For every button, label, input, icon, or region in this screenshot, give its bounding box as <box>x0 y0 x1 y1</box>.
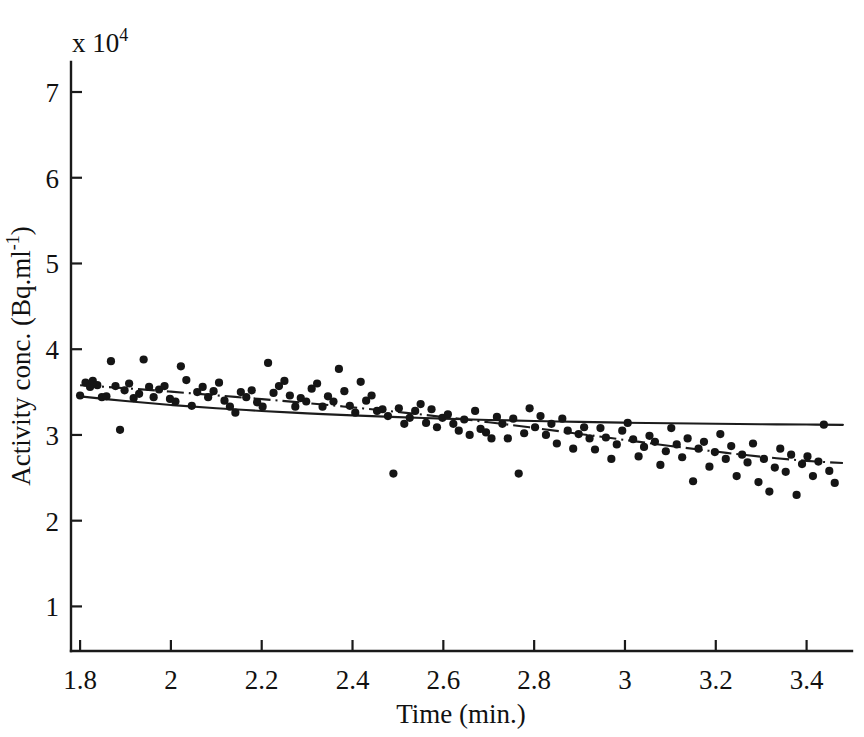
data-point <box>602 433 610 441</box>
x-tick-label: 2 <box>164 665 178 695</box>
data-point <box>776 445 784 453</box>
data-point <box>591 445 599 453</box>
data-point <box>188 402 196 410</box>
data-point <box>743 458 751 466</box>
data-point <box>765 487 773 495</box>
data-point <box>820 421 828 429</box>
data-point <box>269 389 277 397</box>
data-point <box>199 383 207 391</box>
data-point <box>803 452 811 460</box>
y-tick-label: 4 <box>46 335 60 365</box>
data-point <box>215 379 223 387</box>
data-point <box>814 457 822 465</box>
data-point <box>93 381 101 389</box>
data-point <box>120 386 128 394</box>
data-point <box>427 405 435 413</box>
data-point <box>656 461 664 469</box>
data-point <box>395 404 403 412</box>
data-point <box>782 468 790 476</box>
data-point <box>733 472 741 480</box>
data-point <box>378 405 386 413</box>
data-point <box>329 397 337 405</box>
data-point <box>520 429 528 437</box>
data-point <box>738 451 746 459</box>
data-point <box>558 415 566 423</box>
y-axis-multiplier-label: x 104 <box>72 25 128 58</box>
data-point <box>651 438 659 446</box>
data-point <box>705 463 713 471</box>
data-point <box>346 402 354 410</box>
scatter-points-group <box>76 355 839 499</box>
x-tick-label: 2.8 <box>517 665 551 695</box>
data-point <box>302 397 310 405</box>
data-point <box>607 455 615 463</box>
data-point <box>449 420 457 428</box>
data-point <box>140 355 148 363</box>
x-tick-label: 2.6 <box>426 665 460 695</box>
data-point <box>286 391 294 399</box>
data-point <box>335 365 343 373</box>
data-point <box>825 467 833 475</box>
data-point <box>406 414 414 422</box>
data-point <box>493 413 501 421</box>
data-point <box>135 390 143 398</box>
data-point <box>771 463 779 471</box>
data-point <box>177 362 185 370</box>
data-point <box>116 426 124 434</box>
data-point <box>526 404 534 412</box>
data-point <box>466 431 474 439</box>
data-point <box>76 391 84 399</box>
data-point <box>536 412 544 420</box>
x-tick-label: 2.4 <box>336 665 370 695</box>
data-point <box>160 382 168 390</box>
data-point <box>231 409 239 417</box>
data-point <box>264 359 272 367</box>
x-tick-label: 1.8 <box>63 665 97 695</box>
data-point <box>248 386 256 394</box>
data-point <box>531 423 539 431</box>
x-axis-ticks: 1.822.22.42.62.833.23.4 <box>63 640 824 695</box>
data-point <box>111 382 119 390</box>
data-point <box>444 410 452 418</box>
data-point <box>351 409 359 417</box>
data-point <box>634 452 642 460</box>
data-point <box>727 442 735 450</box>
axes-group <box>71 62 852 651</box>
x-tick-label: 3.2 <box>699 665 733 695</box>
data-point <box>125 379 133 387</box>
data-point <box>831 479 839 487</box>
y-tick-label: 3 <box>46 421 60 451</box>
data-point <box>357 378 365 386</box>
data-point <box>678 453 686 461</box>
data-point <box>291 403 299 411</box>
x-tick-label: 3.4 <box>790 665 824 695</box>
data-point <box>515 469 523 477</box>
data-point <box>569 445 577 453</box>
data-point <box>102 392 110 400</box>
y-tick-label: 7 <box>46 78 60 108</box>
y-axis-title: Activity conc. (Bq.ml-1) <box>3 226 36 485</box>
data-point <box>585 434 593 442</box>
data-point <box>411 407 419 415</box>
data-point <box>798 460 806 468</box>
x-tick-label: 2.2 <box>245 665 279 695</box>
data-point <box>564 427 572 435</box>
data-point <box>793 491 801 499</box>
data-point <box>182 376 190 384</box>
data-point <box>722 455 730 463</box>
data-point <box>313 379 321 387</box>
data-point <box>209 387 217 395</box>
data-point <box>107 357 115 365</box>
data-point <box>662 447 670 455</box>
data-point <box>460 415 468 423</box>
data-point <box>711 448 719 456</box>
data-point <box>471 407 479 415</box>
data-point <box>694 445 702 453</box>
y-tick-label: 1 <box>46 592 60 622</box>
data-point <box>618 427 626 435</box>
data-point <box>629 435 637 443</box>
data-point <box>389 469 397 477</box>
data-point <box>580 423 588 431</box>
data-point <box>640 443 648 451</box>
data-point <box>673 440 681 448</box>
